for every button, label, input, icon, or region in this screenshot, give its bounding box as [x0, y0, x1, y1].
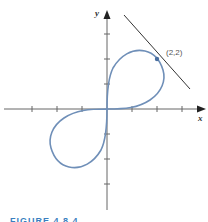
- figure-caption: FIGURE 4.8.4: [10, 216, 79, 222]
- figure-canvas: [0, 0, 208, 222]
- x-axis-arrow-icon: [197, 106, 206, 113]
- curve-lower-loop: [50, 109, 107, 168]
- y-axis-arrow-icon: [104, 10, 111, 19]
- x-axis-label: x: [198, 113, 203, 123]
- point-marker: [155, 57, 159, 61]
- y-axis-label: y: [95, 8, 99, 18]
- point-label: (2,2): [166, 48, 182, 57]
